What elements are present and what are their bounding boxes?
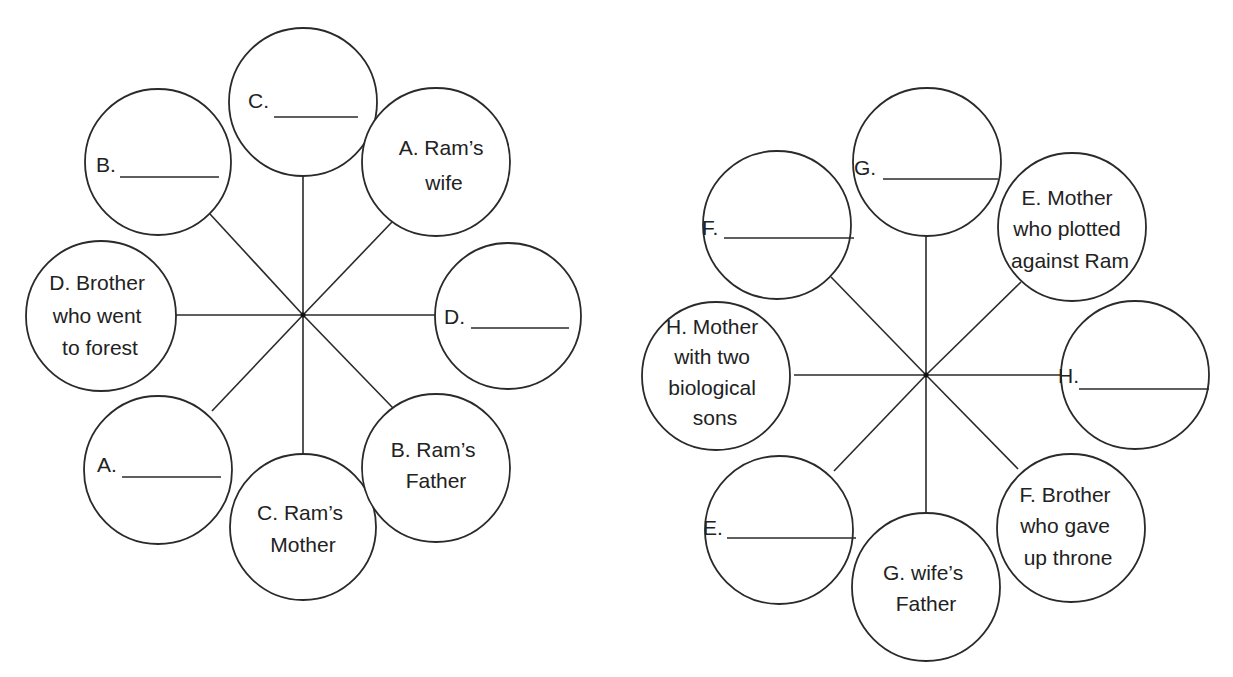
spoke: [926, 375, 1018, 469]
node-e-clue: E. Mother who plotted against Ram: [998, 153, 1146, 301]
node-b-clue: B. Ram’s Father: [362, 394, 510, 542]
node-a-clue: A. Ram’s wife: [362, 88, 510, 236]
clue-text: D. Brother who went to forest: [49, 271, 151, 359]
node-circle: [362, 88, 510, 236]
node-letter: A.: [97, 453, 117, 476]
node-circle: [703, 151, 851, 299]
node-circle: [230, 454, 376, 600]
node-circle: [852, 513, 1000, 661]
node-letter: E.: [703, 516, 723, 539]
node-d-clue: D. Brother who went to forest: [26, 241, 176, 391]
spoke: [303, 222, 392, 315]
node-letter: C.: [248, 89, 269, 112]
node-d-blank[interactable]: D.: [435, 243, 581, 389]
spoke: [212, 315, 303, 411]
node-letter: D.: [444, 305, 465, 328]
node-circle: [705, 456, 853, 604]
node-g-blank[interactable]: G.: [853, 88, 1001, 236]
node-h-clue: H. Mother with two biological sons: [642, 302, 790, 450]
spoke: [926, 282, 1021, 375]
clue-text: F. Brother who gave up throne: [1019, 483, 1116, 569]
node-f-clue: F. Brother who gave up throne: [997, 454, 1145, 602]
hub-point: [924, 373, 929, 378]
spoke: [210, 214, 303, 315]
spoke: [831, 277, 926, 375]
hub-point: [301, 313, 306, 318]
node-letter: F.: [702, 216, 718, 239]
node-f-blank[interactable]: F.: [702, 151, 854, 299]
node-b-blank[interactable]: B.: [85, 89, 231, 235]
spoke: [834, 375, 926, 471]
spoke: [303, 315, 393, 408]
node-circle: [1061, 301, 1209, 449]
node-letter: B.: [96, 153, 116, 176]
node-e-blank[interactable]: E.: [703, 456, 856, 604]
node-letter: H.: [1058, 364, 1079, 387]
node-letter: G.: [854, 156, 876, 179]
node-g-clue: G. wife’s Father: [852, 513, 1000, 661]
node-c-blank[interactable]: C.: [229, 28, 377, 176]
clue-text: E. Mother who plotted against Ram: [1011, 186, 1129, 272]
node-circle: [362, 394, 510, 542]
node-c-clue: C. Ram’s Mother: [230, 454, 376, 600]
right-web: G. F. E. Mother who plotted against Ram …: [642, 88, 1209, 661]
node-a-blank[interactable]: A.: [84, 396, 232, 544]
left-web: C. B. A. Ram’s wife D. Brother who went …: [26, 28, 581, 600]
node-h-blank[interactable]: H.: [1058, 301, 1209, 449]
relationship-webs: C. B. A. Ram’s wife D. Brother who went …: [0, 0, 1233, 677]
